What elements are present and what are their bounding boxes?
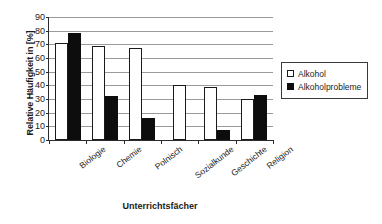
bar-polnisch-alkohol bbox=[129, 48, 142, 140]
y-tick-label: 0 bbox=[21, 136, 45, 145]
x-tick-label: Religion bbox=[264, 144, 294, 171]
y-tick-label: 60 bbox=[21, 54, 45, 63]
bar-chemie-alkohol bbox=[92, 46, 105, 140]
x-tick-label-text: Religion bbox=[264, 144, 294, 171]
y-tick-label: 90 bbox=[21, 13, 45, 22]
x-tick-labels: BiologieChemiePolnischSozialkundeGeschic… bbox=[48, 144, 272, 194]
bar-biologie-alkoholprobleme bbox=[68, 33, 81, 140]
legend-label: Alkoholprobleme bbox=[298, 82, 361, 92]
x-tick-label-text: Polnisch bbox=[153, 144, 184, 172]
bar-chemie-alkoholprobleme bbox=[105, 96, 118, 140]
bar-geschichte-alkohol bbox=[204, 87, 217, 140]
y-tick-label: 40 bbox=[21, 81, 45, 90]
y-tick-label: 50 bbox=[21, 67, 45, 76]
x-tick-mark bbox=[273, 140, 274, 144]
legend-swatch-black-square-icon bbox=[287, 83, 294, 90]
bar-polnisch-alkoholprobleme bbox=[142, 118, 155, 140]
bar-group bbox=[49, 17, 86, 140]
legend-item-alkoholprobleme: Alkoholprobleme bbox=[287, 80, 361, 93]
x-tick-label-text: Biologie bbox=[78, 144, 108, 171]
x-tick-label: Geschichte bbox=[229, 144, 269, 178]
legend-item-alkohol: Alkohol bbox=[287, 67, 361, 80]
x-tick-label: Sozialkunde bbox=[193, 144, 236, 180]
bar-group bbox=[198, 17, 235, 140]
plot-area: 9080706050403020100 bbox=[48, 17, 273, 141]
bar-religion-alkohol bbox=[241, 99, 254, 140]
y-tick-label: 80 bbox=[21, 26, 45, 35]
x-tick-label-text: Chemie bbox=[115, 144, 144, 170]
x-axis-title: Unterrichtsfächer bbox=[48, 201, 272, 211]
bar-biologie-alkohol bbox=[55, 43, 68, 140]
x-tick-label-text: Geschichte bbox=[229, 144, 269, 178]
x-tick-label: Polnisch bbox=[153, 144, 184, 172]
x-tick-label: Chemie bbox=[115, 144, 144, 170]
y-tick-label: 70 bbox=[21, 40, 45, 49]
bar-sozialkunde-alkohol bbox=[173, 85, 186, 140]
y-tick-label: 20 bbox=[21, 108, 45, 117]
bar-group bbox=[86, 17, 123, 140]
x-tick-label: Biologie bbox=[78, 144, 108, 171]
bar-groups bbox=[49, 17, 273, 140]
bar-geschichte-alkoholprobleme bbox=[217, 130, 230, 140]
bar-group bbox=[124, 17, 161, 140]
y-tick-label: 10 bbox=[21, 122, 45, 131]
legend-swatch-white-square-icon bbox=[287, 70, 294, 77]
x-tick-label-text: Sozialkunde bbox=[193, 144, 236, 180]
legend: Alkohol Alkoholprobleme bbox=[281, 62, 368, 99]
legend-label: Alkohol bbox=[298, 69, 326, 79]
bar-group bbox=[236, 17, 273, 140]
bar-religion-alkoholprobleme bbox=[254, 95, 267, 140]
y-tick-label: 30 bbox=[21, 95, 45, 104]
bar-chart-figure: Relative Häufigkeit in [%] 9080706050403… bbox=[0, 0, 382, 224]
bar-group bbox=[161, 17, 198, 140]
